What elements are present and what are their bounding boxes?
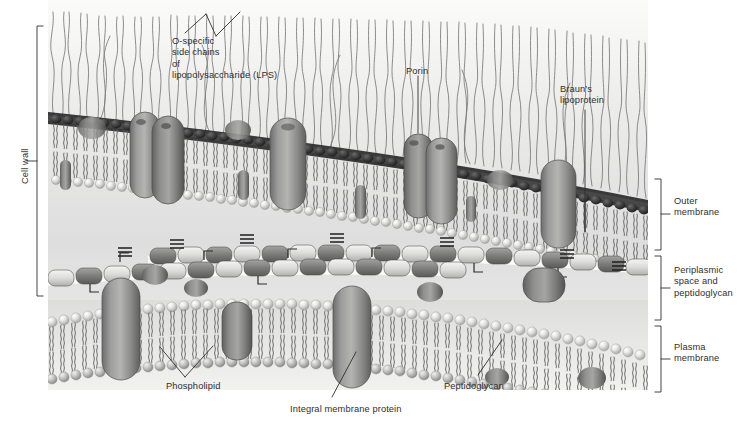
callout-phospholipid: Phospholipid xyxy=(166,381,220,392)
om-blob-3 xyxy=(78,117,106,139)
periplasm-protein-1 xyxy=(417,282,443,302)
callout-brauns-lipoprotein: Braun's lipoprotein xyxy=(560,84,604,107)
pm-surface-blob-1 xyxy=(142,265,168,285)
cell-envelope-illustration xyxy=(0,0,749,433)
figure-canvas: Cell wall Outer membrane Periplasmic spa… xyxy=(0,0,749,433)
integral-protein-mid-small xyxy=(222,302,252,360)
om-blob-2 xyxy=(487,170,513,190)
callout-porin: Porin xyxy=(406,66,428,77)
bracket-label-outer-membrane: Outer membrane xyxy=(674,196,719,219)
porin-center xyxy=(270,118,306,210)
pm-surface-blob-2 xyxy=(578,367,606,389)
om-stub-2 xyxy=(355,185,366,219)
bracket-outer-membrane xyxy=(655,179,670,250)
bracket-label-cell-wall: Cell wall xyxy=(20,148,31,184)
om-stub-3 xyxy=(60,160,71,190)
bracket-label-periplasm: Periplasmic space and peptidoglycan xyxy=(674,265,733,299)
om-stub-4 xyxy=(466,196,476,222)
bracket-periplasm xyxy=(655,256,670,320)
om-blob-1 xyxy=(225,120,251,140)
periplasm-protein-2 xyxy=(184,279,208,297)
callout-lps: O-specific side chains of lipopolysaccha… xyxy=(172,36,277,82)
om-stub-1 xyxy=(238,170,249,200)
om-protein-far-right xyxy=(541,160,576,248)
integral-protein-center xyxy=(333,286,371,388)
porin-left xyxy=(130,112,184,204)
integral-protein-right-periplasm xyxy=(523,268,565,302)
bracket-label-plasma-membrane: Plasma membrane xyxy=(674,342,719,365)
bracket-plasma-membrane xyxy=(655,326,670,392)
porin-right xyxy=(404,134,457,224)
integral-protein-left xyxy=(102,278,140,380)
callout-peptidoglycan: Peptidoglycan xyxy=(444,381,504,392)
callout-integral-membrane-protein: Integral membrane protein xyxy=(290,404,402,415)
